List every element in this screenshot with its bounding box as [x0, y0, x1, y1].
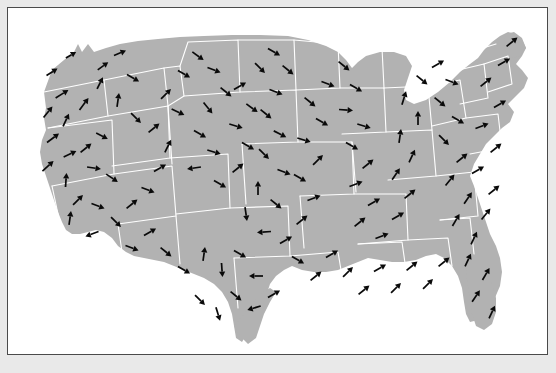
arrow-shaft — [117, 98, 118, 107]
arrow-shaft — [391, 287, 397, 293]
state-border-segment — [502, 148, 508, 184]
arrow-shaft — [343, 271, 349, 277]
wind-vector-arrow — [407, 262, 418, 271]
arrow-shaft — [66, 178, 67, 187]
figure-frame — [7, 7, 548, 355]
arrow-shaft — [203, 252, 204, 261]
wind-vector-arrow — [417, 76, 428, 85]
wind-vector-arrow — [391, 283, 401, 293]
wind-vector-arrow — [423, 279, 433, 289]
arrow-shaft — [439, 261, 446, 266]
wind-vector-arrow — [85, 231, 98, 237]
arrow-shaft — [417, 76, 424, 81]
wind-vector-arrow — [432, 60, 444, 67]
arrow-shaft — [399, 134, 400, 143]
arrow-shaft — [407, 265, 414, 270]
arrow-shaft — [91, 231, 99, 234]
arrow-shaft — [192, 167, 201, 168]
wind-vector-arrow — [216, 307, 222, 320]
arrow-shaft — [262, 232, 271, 233]
arrow-shaft — [245, 207, 246, 216]
arrow-shaft — [489, 189, 496, 194]
arrow-shaft — [195, 295, 201, 301]
arrow-shaft — [423, 283, 429, 289]
arrow-shaft — [359, 289, 366, 294]
wind-vector-arrow — [195, 295, 205, 305]
arrow-shaft — [374, 267, 381, 271]
wind-vector-arrow — [472, 166, 484, 173]
arrow-shaft — [472, 169, 479, 173]
wind-vector-arrow — [359, 286, 370, 295]
arrow-shaft — [87, 167, 96, 168]
arrow-shaft — [216, 307, 219, 315]
wind-vector-arrow — [311, 272, 322, 281]
arrow-shaft — [311, 275, 318, 280]
arrow-shaft — [69, 216, 70, 225]
wind-vector-arrow — [489, 186, 500, 195]
us-landmass-group — [40, 32, 528, 344]
arrow-shaft — [222, 263, 223, 272]
arrow-head — [216, 315, 222, 321]
wind-vector-arrow — [374, 264, 386, 271]
arrow-shaft — [432, 63, 439, 67]
us-vector-field-map — [8, 8, 547, 354]
wind-vector-arrow — [343, 267, 353, 277]
arrow-shaft — [339, 110, 348, 111]
wind-vector-arrow — [439, 258, 450, 267]
